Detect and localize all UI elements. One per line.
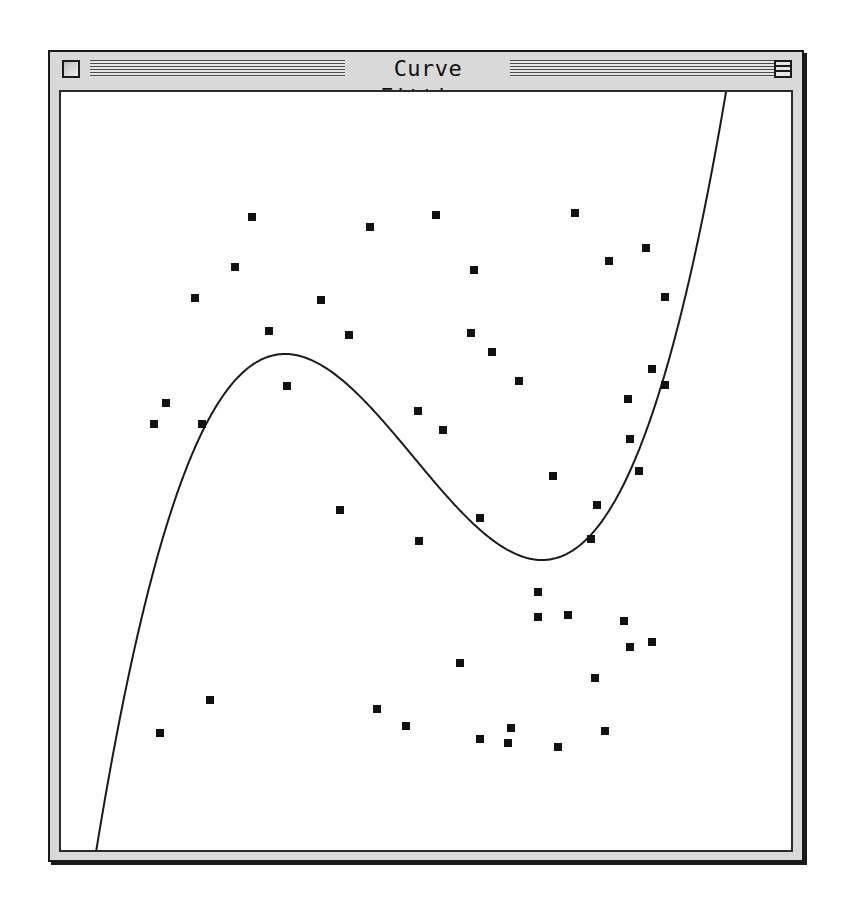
data-point	[248, 213, 256, 221]
data-point	[648, 365, 656, 373]
data-point	[642, 244, 650, 252]
data-point	[467, 329, 475, 337]
data-point	[534, 588, 542, 596]
data-point	[206, 696, 214, 704]
data-point	[571, 209, 579, 217]
data-point	[456, 659, 464, 667]
data-point	[231, 263, 239, 271]
data-point	[626, 643, 634, 651]
data-point	[626, 435, 634, 443]
data-point	[439, 426, 447, 434]
data-point	[554, 743, 562, 751]
data-point	[432, 211, 440, 219]
data-point	[648, 638, 656, 646]
data-point	[283, 382, 291, 390]
data-point	[198, 420, 206, 428]
data-point	[534, 613, 542, 621]
plot-area[interactable]	[59, 90, 793, 852]
data-point	[345, 331, 353, 339]
data-point	[336, 506, 344, 514]
data-point	[415, 537, 423, 545]
title-bar-stripes-left	[90, 60, 345, 77]
curve-fitting-window: Curve Fitting	[48, 50, 804, 862]
data-point	[564, 611, 572, 619]
data-point	[156, 729, 164, 737]
data-point	[635, 467, 643, 475]
data-point	[661, 293, 669, 301]
title-bar[interactable]: Curve Fitting	[50, 52, 802, 86]
data-point	[191, 294, 199, 302]
data-point	[150, 420, 158, 428]
data-point	[601, 727, 609, 735]
fitted-cubic-curve	[93, 92, 727, 852]
data-point	[265, 327, 273, 335]
data-point	[620, 617, 628, 625]
data-point	[507, 724, 515, 732]
data-point	[549, 472, 557, 480]
data-point	[476, 514, 484, 522]
data-point	[470, 266, 478, 274]
data-point	[317, 296, 325, 304]
data-point	[593, 501, 601, 509]
data-point	[414, 407, 422, 415]
scatter-plot-with-fitted-curve	[61, 92, 793, 852]
data-point	[488, 348, 496, 356]
data-point	[402, 722, 410, 730]
data-point	[515, 377, 523, 385]
title-bar-stripes-right	[510, 60, 775, 77]
data-points	[150, 209, 669, 751]
data-point	[373, 705, 381, 713]
data-point	[476, 735, 484, 743]
data-point	[591, 674, 599, 682]
zoom-box-icon[interactable]	[774, 60, 792, 78]
data-point	[624, 395, 632, 403]
data-point	[504, 739, 512, 747]
data-point	[162, 399, 170, 407]
data-point	[587, 535, 595, 543]
window-title: Curve Fitting	[348, 55, 508, 83]
data-point	[366, 223, 374, 231]
close-box-icon[interactable]	[62, 60, 80, 78]
data-point	[661, 381, 669, 389]
data-point	[605, 257, 613, 265]
